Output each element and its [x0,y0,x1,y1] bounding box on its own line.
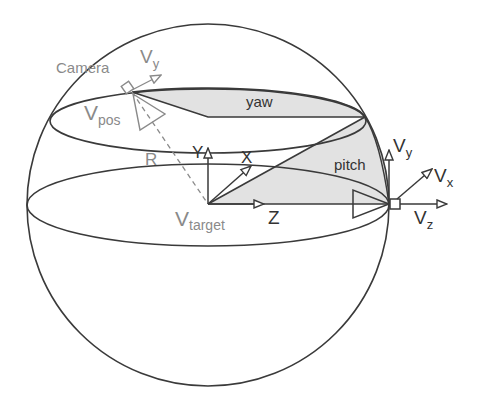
diagram-canvas: Camera Vy Vpos R yaw pitch Y X Z Vtarget… [0,0,480,396]
vtarget-label: Vtarget [175,207,225,233]
camera-vy-label: Vy [140,46,160,71]
target-vy-label: Vy [393,135,413,160]
target-vz-label: Vz [414,207,433,232]
yaw-label: yaw [246,93,273,110]
sphere-outline [27,24,389,386]
target-camera-box-icon [390,199,400,209]
vpos-label: Vpos [84,101,121,128]
target-vx-label: Vx [434,165,454,190]
camera-label: Camera [56,59,110,76]
camera-vy-arrow [132,75,161,90]
axis-x-label: X [241,148,252,167]
target-vx-arrow [397,169,432,199]
orbit-camera-diagram: Camera Vy Vpos R yaw pitch Y X Z Vtarget… [0,0,480,396]
axis-y-label: Y [192,143,203,162]
axis-z-label: Z [268,207,280,228]
radius-label: R [145,150,157,169]
pitch-label: pitch [334,156,366,173]
